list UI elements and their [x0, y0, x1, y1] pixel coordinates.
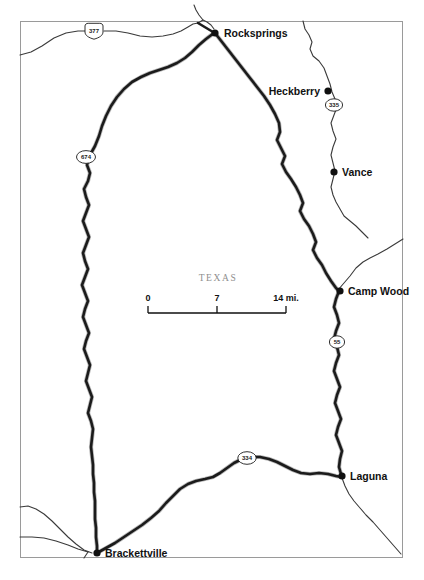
city-dot-icon [211, 29, 218, 36]
city-label-brackettville: Brackettville [105, 547, 168, 559]
city-label-rocksprings: Rocksprings [224, 27, 288, 39]
city-dot-icon [330, 168, 337, 175]
route-shield-377-number: 377 [89, 28, 100, 34]
map-canvas: 377 674 335 55 334 Rocksprings Heckberry [0, 0, 424, 580]
route-shield-674-number: 674 [81, 154, 92, 160]
route-shield-55[interactable]: 55 [329, 336, 344, 348]
scale-label-14-mi: 14 mi. [273, 293, 299, 303]
city-dot-icon [338, 472, 345, 479]
route-shield-334[interactable]: 334 [238, 452, 256, 465]
route-shield-334-number: 334 [242, 455, 253, 461]
city-camp-wood[interactable]: Camp Wood [336, 285, 409, 297]
route-shield-674[interactable]: 674 [77, 151, 96, 164]
city-label-heckberry: Heckberry [269, 85, 321, 97]
city-label-vance: Vance [342, 166, 373, 178]
city-brackettville[interactable]: Brackettville [93, 547, 167, 559]
city-label-camp-wood: Camp Wood [348, 285, 409, 297]
city-dot-icon [324, 87, 331, 94]
city-dot-icon [336, 287, 343, 294]
map-container: 377 674 335 55 334 Rocksprings Heckberry [0, 0, 424, 580]
route-shield-335-number: 335 [329, 102, 340, 108]
city-label-laguna: Laguna [350, 470, 387, 482]
route-shield-55-number: 55 [334, 339, 341, 345]
route-shield-335[interactable]: 335 [325, 99, 342, 111]
scale-label-0: 0 [145, 293, 150, 303]
route-shield-377[interactable]: 377 [85, 23, 103, 39]
scale-label-7: 7 [214, 293, 219, 303]
city-dot-icon [93, 549, 100, 556]
state-label-texas: TEXAS [199, 273, 238, 283]
